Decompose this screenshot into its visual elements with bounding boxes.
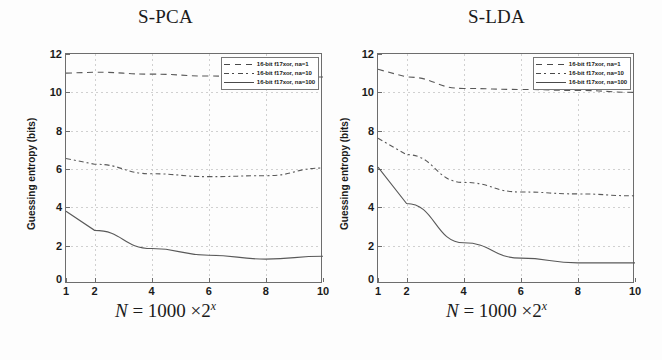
- y-axis-tick-label: 2: [56, 240, 62, 252]
- data-curve: [66, 158, 323, 176]
- x-axis-tick-mark: [323, 278, 324, 282]
- x-axis-tick-label: 10: [317, 285, 329, 297]
- x-axis-tick-label: 4: [149, 285, 155, 297]
- x-axis-tick-label: 8: [575, 285, 581, 297]
- y-axis-tick-label-zero: 0: [56, 273, 62, 285]
- x-axis-label-var: N: [115, 300, 128, 321]
- y-axis-tick-label: 12: [50, 48, 62, 60]
- x-axis-label-pow-exp: x: [211, 300, 216, 313]
- data-curve: [66, 211, 323, 259]
- legend-item: 16-bit f17xor, na=1: [536, 60, 627, 69]
- legend-line-sample: [536, 61, 566, 68]
- y-axis-tick-label: 4: [368, 201, 374, 213]
- x-axis-tick-label: 1: [63, 285, 69, 297]
- y-axis-tick-label: 2: [368, 240, 374, 252]
- chart-title-s-pca: S-PCA: [0, 6, 331, 28]
- legend-item: 16-bit f17xor, na=10: [224, 69, 315, 78]
- x-axis-label-s-pca: N = 1000 ×2x: [0, 300, 331, 322]
- x-axis-label-base: 1000: [479, 300, 517, 321]
- x-axis-label-s-lda: N = 1000 ×2x: [331, 300, 662, 322]
- x-axis-label-var: N: [446, 300, 459, 321]
- legend-item: 16-bit f17xor, na=100: [536, 78, 627, 87]
- y-axis-tick-label: 12: [362, 48, 374, 60]
- y-axis-tick-label: 6: [368, 163, 374, 175]
- legend-item-label: 16-bit f17xor, na=1: [569, 60, 621, 69]
- plot-area-s-pca: 246810120124681016-bit f17xor, na=116-bi…: [65, 53, 322, 283]
- legend-item: 16-bit f17xor, na=1: [224, 60, 315, 69]
- chart-legend: 16-bit f17xor, na=116-bit f17xor, na=101…: [533, 57, 631, 90]
- x-axis-tick-label: 8: [263, 285, 269, 297]
- legend-item-label: 16-bit f17xor, na=100: [257, 78, 315, 87]
- legend-line-sample: [536, 79, 566, 86]
- chart-title-s-lda: S-LDA: [331, 6, 662, 28]
- x-axis-label-pow-base: 2: [532, 300, 542, 321]
- x-axis-tick-label: 4: [461, 285, 467, 297]
- y-axis-tick-label: 4: [56, 201, 62, 213]
- x-axis-tick-label: 1: [375, 285, 381, 297]
- legend-item: 16-bit f17xor, na=10: [536, 69, 627, 78]
- x-axis-tick-label: 2: [91, 285, 97, 297]
- x-axis-label-pow-exp: x: [542, 300, 547, 313]
- legend-line-sample: [224, 61, 254, 68]
- legend-item: 16-bit f17xor, na=100: [224, 78, 315, 87]
- x-axis-tick-label: 10: [629, 285, 641, 297]
- legend-line-sample: [536, 70, 566, 77]
- x-axis-tick-label: 6: [518, 285, 524, 297]
- x-axis-label-times: ×: [522, 300, 533, 321]
- x-axis-label-pow-base: 2: [201, 300, 211, 321]
- legend-item-label: 16-bit f17xor, na=1: [257, 60, 309, 69]
- y-axis-tick-label-zero: 0: [368, 273, 374, 285]
- y-axis-label-s-lda: Guessing entropy (bits): [339, 118, 350, 230]
- data-curve: [378, 167, 635, 263]
- y-axis-tick-label: 10: [362, 86, 374, 98]
- legend-item-label: 16-bit f17xor, na=10: [257, 69, 312, 78]
- legend-item-label: 16-bit f17xor, na=100: [569, 78, 627, 87]
- y-axis-tick-label: 8: [368, 125, 374, 137]
- y-axis-tick-label: 10: [50, 86, 62, 98]
- chart-legend: 16-bit f17xor, na=116-bit f17xor, na=101…: [221, 57, 319, 90]
- x-axis-tick-label: 2: [403, 285, 409, 297]
- chart-panel-s-pca: S-PCA Guessing entropy (bits) 2468101201…: [0, 0, 331, 360]
- x-axis-label-times: ×: [191, 300, 202, 321]
- y-axis-label-s-pca: Guessing entropy (bits): [26, 118, 37, 230]
- x-axis-label-eq: =: [463, 300, 474, 321]
- legend-item-label: 16-bit f17xor, na=10: [569, 69, 624, 78]
- x-axis-tick-mark: [635, 278, 636, 282]
- x-axis-label-base: 1000: [148, 300, 186, 321]
- y-axis-tick-label: 8: [56, 125, 62, 137]
- legend-line-sample: [224, 70, 254, 77]
- plot-area-s-lda: 246810120124681016-bit f17xor, na=116-bi…: [377, 53, 634, 283]
- legend-line-sample: [224, 79, 254, 86]
- data-curve: [378, 138, 635, 196]
- x-axis-tick-label: 6: [206, 285, 212, 297]
- x-axis-label-eq: =: [132, 300, 143, 321]
- chart-panel-s-lda: S-LDA Guessing entropy (bits) 2468101201…: [331, 0, 662, 360]
- y-axis-tick-label: 6: [56, 163, 62, 175]
